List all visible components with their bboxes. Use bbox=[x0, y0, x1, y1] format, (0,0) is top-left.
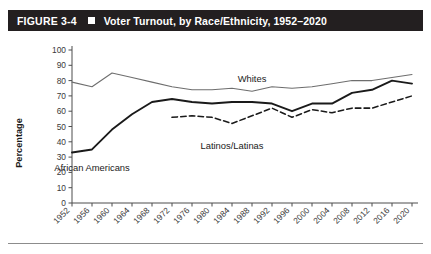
x-tick-label: 1972 bbox=[151, 205, 171, 225]
y-tick-label: 80 bbox=[57, 76, 67, 86]
chart-plot-area: 0102030405060708090100 19521956196019641… bbox=[8, 33, 423, 247]
series-label-latinos-latinas: Latinos/Latinas bbox=[200, 140, 263, 151]
y-tick-label: 60 bbox=[57, 106, 67, 116]
x-tick-label: 1992 bbox=[251, 205, 271, 225]
figure-title-bar: FIGURE 3-4 Voter Turnout, by Race/Ethnic… bbox=[8, 10, 423, 31]
y-tick-label: 100 bbox=[52, 45, 66, 55]
x-tick-label: 1996 bbox=[271, 205, 291, 225]
y-axis: 0102030405060708090100 bbox=[52, 45, 72, 208]
x-tick-label: 1952 bbox=[51, 205, 71, 225]
y-tick-label: 50 bbox=[57, 122, 67, 132]
series-label-whites: Whites bbox=[238, 73, 267, 84]
voter-turnout-line-chart: 0102030405060708090100 19521956196019641… bbox=[8, 33, 423, 247]
x-tick-label: 1968 bbox=[131, 205, 151, 225]
y-tick-label: 90 bbox=[57, 60, 67, 70]
series-line-latinos-latinas bbox=[172, 96, 412, 124]
y-tick-label: 10 bbox=[57, 183, 67, 193]
figure-number-label: FIGURE 3-4 bbox=[17, 15, 77, 27]
x-tick-label: 1976 bbox=[171, 205, 191, 225]
x-tick-label: 1964 bbox=[111, 205, 131, 225]
figure-bottom-rule bbox=[8, 243, 423, 244]
y-axis-title: Percentage bbox=[14, 118, 24, 168]
series-label-african-americans: African Americans bbox=[54, 162, 130, 173]
x-tick-label: 2008 bbox=[331, 205, 351, 225]
figure-title-text: Voter Turnout, by Race/Ethnicity, 1952–2… bbox=[104, 15, 327, 27]
y-tick-label: 40 bbox=[57, 137, 67, 147]
x-tick-label: 2000 bbox=[291, 205, 311, 225]
x-tick-label: 1988 bbox=[231, 205, 251, 225]
filled-square-icon bbox=[88, 17, 95, 24]
figure-card: FIGURE 3-4 Voter Turnout, by Race/Ethnic… bbox=[0, 0, 431, 254]
x-tick-label: 1980 bbox=[191, 205, 211, 225]
x-axis: 1952195619601964196819721976198019841988… bbox=[51, 203, 418, 226]
x-tick-label: 1956 bbox=[71, 205, 91, 225]
x-tick-label: 2004 bbox=[311, 205, 331, 225]
x-tick-label: 1960 bbox=[91, 205, 111, 225]
y-tick-label: 30 bbox=[57, 152, 67, 162]
x-tick-label: 2020 bbox=[391, 205, 411, 225]
y-tick-label: 70 bbox=[57, 91, 67, 101]
x-tick-label: 2016 bbox=[371, 205, 391, 225]
x-tick-label: 1984 bbox=[211, 205, 231, 225]
x-tick-label: 2012 bbox=[351, 205, 371, 225]
